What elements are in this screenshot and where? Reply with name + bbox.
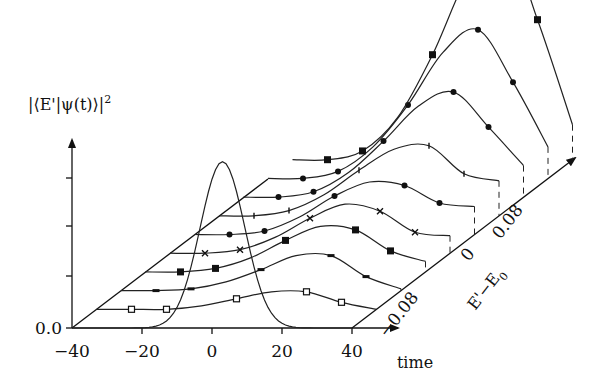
y-axis: 0.0 |⟨E'|ψ(t)⟩|2 [28,93,111,338]
energy-curve [170,204,450,256]
data-point-marker [129,306,135,312]
x-tick-40: 40 [341,341,363,361]
energy-curves [97,0,573,312]
x-tick-neg20: −20 [124,341,160,361]
data-point-marker [311,189,317,195]
data-point-marker [332,193,338,199]
data-point-marker [363,275,370,278]
data-point-marker [307,215,313,221]
data-point-marker [188,287,195,290]
data-point-marker [402,183,408,189]
data-point-marker [412,229,418,235]
data-point-marker [300,175,306,181]
data-point-marker [339,299,345,305]
data-point-marker [177,268,184,275]
data-point-marker [510,79,516,85]
data-point-marker [276,194,282,200]
x-tick-neg40: −40 [54,341,90,361]
energy-curve [268,27,548,182]
z-tick-0: 0 [456,244,478,265]
data-point-marker [282,237,289,244]
data-point-marker [377,208,383,214]
data-point-marker [359,147,366,154]
data-point-marker [324,156,331,163]
data-point-marker [234,296,240,302]
data-point-marker [451,89,457,95]
data-point-marker [352,226,359,233]
x-axis: −40 −20 0 20 40 time [54,328,433,372]
data-point-marker [212,265,219,272]
data-point-marker [304,289,310,295]
data-point-marker [258,268,265,271]
data-point-marker [262,228,268,234]
y-axis-title: |⟨E'|ψ(t)⟩|2 [28,93,111,114]
energy-curve [293,0,573,163]
energy-curve [244,89,524,200]
x-tick-20: 20 [271,341,293,361]
data-point-marker [475,27,481,33]
pulse-curve [72,162,352,328]
z-tick-neg008: −0.08 [374,288,422,341]
excitation-pulse [72,162,352,328]
data-point-marker [534,16,541,23]
x-tick-0: 0 [207,341,218,361]
data-point-marker [164,306,170,312]
data-point-marker [486,124,492,130]
data-point-marker [227,232,233,238]
z-axis-title: E'−E0 [463,264,511,316]
energy-curve [146,226,426,276]
x-axis-title: time [397,353,433,372]
data-point-marker [153,289,160,292]
y-tick-zero: 0.0 [35,318,62,338]
energy-curve [97,289,377,313]
z-tick-008: 0.08 [488,200,527,242]
data-point-marker [328,254,335,257]
data-point-marker [437,200,443,206]
waterfall-chart: 0.0 |⟨E'|ψ(t)⟩|2 −40 −20 0 20 40 time −0… [0,0,599,385]
data-point-marker [429,51,436,58]
data-point-marker [387,247,394,254]
energy-axis: −0.08 0 0.08 E'−E0 [72,158,575,341]
data-point-marker [335,168,341,174]
